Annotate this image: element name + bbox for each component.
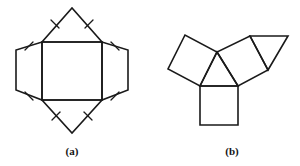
- panel-b-group: [168, 35, 288, 125]
- figure-label-a: (a): [66, 145, 79, 157]
- a-top-triangle: [42, 8, 102, 42]
- b-left-square: [168, 35, 217, 86]
- a-left-trapezoid: [16, 42, 42, 100]
- geometry-figure-root: (a) (b): [0, 0, 300, 166]
- b-bottom-square: [200, 86, 238, 125]
- b-right-triangle-flap: [250, 36, 288, 70]
- a-central-rectangle: [42, 42, 102, 100]
- tick-right-upper-slant: [111, 42, 119, 50]
- a-bottom-triangle: [42, 100, 102, 133]
- a-tick-marks-group: [25, 20, 119, 120]
- figure-label-b: (b): [225, 145, 238, 157]
- tick-left-upper-slant: [25, 42, 33, 50]
- b-central-triangle: [200, 52, 238, 86]
- panel-a-group: [16, 8, 128, 133]
- b-right-square: [217, 36, 268, 86]
- nets-diagram-svg: [0, 0, 300, 166]
- a-right-trapezoid: [102, 42, 128, 100]
